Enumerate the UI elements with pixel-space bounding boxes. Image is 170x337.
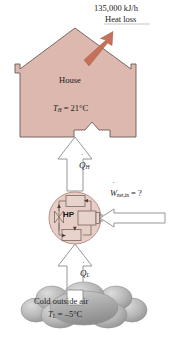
q-high-subscript: H (86, 164, 90, 170)
q-high-label: ˙QH (79, 160, 90, 170)
house-temp-value: = 21°C (64, 103, 89, 113)
cold-temp-subscript: L (53, 313, 56, 319)
cold-air-label: Cold outside air (34, 296, 88, 306)
compressor-box (78, 211, 96, 225)
house-temp-subscript: H (58, 107, 62, 113)
house-temperature-label: TH = 21°C (53, 103, 88, 113)
work-input-arrow (100, 209, 165, 227)
condenser-box (66, 196, 85, 207)
q-high-symbol-group: ˙Q (79, 160, 86, 170)
cold-temperature-label: TL = –5°C (48, 309, 82, 319)
compressor-shaft (96, 213, 100, 224)
evaporator-box (62, 230, 81, 241)
figure-canvas: 135,000 kJ/h Heat loss House TH = 21°C ˙… (0, 0, 170, 337)
heat-loss-value: 135,000 kJ/h (94, 3, 138, 13)
work-input-label: ˙Wnet,in = ? (110, 188, 142, 198)
cold-temp-value: = –5°C (58, 309, 83, 319)
q-low-label: ˙QL (80, 268, 90, 278)
house-label: House (59, 75, 81, 85)
heat-pump-label: HP (63, 210, 74, 219)
work-subscript: net,in (117, 192, 129, 198)
q-low-symbol-group: ˙Q (80, 268, 87, 278)
work-value: = ? (131, 188, 142, 198)
heat-loss-caption: Heat loss (105, 14, 136, 24)
heat-pump-unit (49, 192, 103, 244)
work-symbol-group: ˙W (110, 188, 117, 198)
